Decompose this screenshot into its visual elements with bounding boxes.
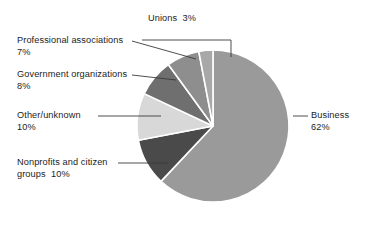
slice-label-nonprofits-and-citizen-groups: Nonprofits and citizen groups 10% <box>17 157 108 180</box>
slice-label-other-unknown: Other/unknown 10% <box>17 110 81 133</box>
slice-label-professional-associations: Professional associations 7% <box>17 35 123 58</box>
slice-label-business: Business 62% <box>311 110 349 133</box>
leader-line-professional-associations <box>132 41 196 59</box>
slice-label-government-organizations: Government organizations 8% <box>17 69 127 92</box>
pie-slices <box>137 50 289 202</box>
slice-label-unions: Unions 3% <box>148 13 196 25</box>
pie-chart: Unions 3% Professional associations 7% G… <box>0 0 375 230</box>
